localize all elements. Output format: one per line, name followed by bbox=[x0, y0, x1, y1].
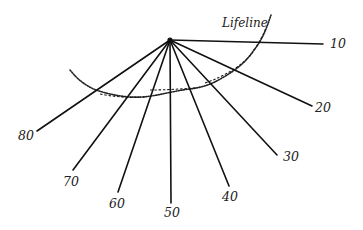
ray-label-30: 30 bbox=[283, 151, 299, 164]
fan-diagram bbox=[0, 0, 363, 230]
ray-10 bbox=[170, 40, 323, 44]
ray-70 bbox=[73, 40, 170, 170]
ray-60 bbox=[118, 40, 170, 192]
ray-label-20: 20 bbox=[315, 102, 331, 115]
ray-label-60: 60 bbox=[109, 198, 125, 211]
ray-80 bbox=[37, 40, 170, 131]
ray-50 bbox=[170, 40, 171, 203]
ray-label-50: 50 bbox=[164, 207, 180, 220]
ray-label-10: 10 bbox=[330, 38, 346, 51]
rays bbox=[37, 40, 323, 203]
lifeline-label: Lifeline bbox=[222, 17, 268, 29]
ray-label-80: 80 bbox=[18, 130, 34, 143]
ray-30 bbox=[170, 40, 277, 155]
lifeline-curve-overlay bbox=[100, 28, 266, 97]
ray-40 bbox=[170, 40, 229, 186]
ray-label-70: 70 bbox=[63, 176, 79, 189]
ray-20 bbox=[170, 40, 312, 106]
ray-label-40: 40 bbox=[222, 191, 238, 204]
hub-point bbox=[167, 37, 172, 42]
